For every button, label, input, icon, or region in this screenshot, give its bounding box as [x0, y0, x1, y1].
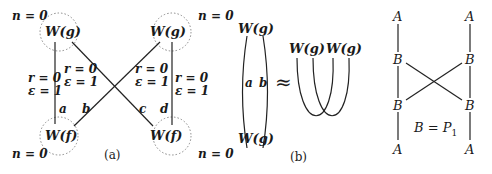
c-bottom-right: A [465, 143, 474, 156]
caption-b: (b) [290, 151, 307, 163]
edge-label-cross-left-r: r = 0 [64, 63, 98, 76]
node-bottom-right: W(f) [150, 129, 183, 142]
b-node-bottom: W(g) [238, 132, 274, 145]
b-right-node-2: W(g) [326, 42, 362, 55]
edge-label-left: r = 0 ε = 1 [28, 72, 62, 97]
c-mid2-right: B [465, 99, 475, 112]
edge-name-b: b [82, 103, 90, 115]
b-right-node-1: W(g) [289, 42, 325, 55]
edge-name-d: d [160, 103, 168, 115]
u-curve-2 [313, 58, 349, 116]
edge-name-a: a [59, 103, 67, 115]
edge-label-right-r: r = 0 [175, 72, 209, 85]
edge-label-cross-right: r = 0 ε = 1 [135, 63, 169, 88]
edge-label-left-eps: ε = 1 [28, 85, 62, 98]
n-label-top-left: n = 0 [12, 10, 47, 22]
n-label-top-right: n = 0 [198, 10, 233, 22]
c-top-left: A [393, 10, 402, 23]
node-top-right: W(g) [150, 25, 186, 38]
edge-label-cross-right-r: r = 0 [135, 63, 169, 76]
c-mid2-left: B [393, 99, 403, 112]
edge-label-cross-left-eps: ε = 1 [64, 76, 98, 89]
c-mid1-right: B [465, 53, 475, 66]
edge-name-c: c [139, 103, 146, 115]
b-node-top: W(g) [238, 22, 274, 35]
edge-label-left-r: r = 0 [28, 72, 62, 85]
c-equation-main: B = P [414, 120, 451, 135]
b-edge-a: a [245, 77, 253, 89]
edge-label-cross-right-eps: ε = 1 [135, 76, 169, 89]
c-equation: B = P1 [414, 121, 457, 138]
n-label-bottom-right: n = 0 [198, 148, 233, 160]
edge-label-right-eps: ε = 1 [175, 85, 209, 98]
c-equation-sub: 1 [451, 128, 457, 138]
b-edge-b: b [259, 77, 267, 89]
n-label-bottom-left: n = 0 [12, 148, 47, 160]
c-top-right: A [465, 10, 474, 23]
edge-label-right: r = 0 ε = 1 [175, 72, 209, 97]
caption-a: (a) [104, 149, 121, 161]
node-top-left: W(g) [45, 25, 81, 38]
node-bottom-left: W(f) [45, 129, 78, 142]
edge-label-cross-left: r = 0 ε = 1 [64, 63, 98, 88]
c-bottom-left: A [393, 143, 402, 156]
approx-symbol: ≈ [275, 72, 292, 92]
c-mid1-left: B [393, 53, 403, 66]
